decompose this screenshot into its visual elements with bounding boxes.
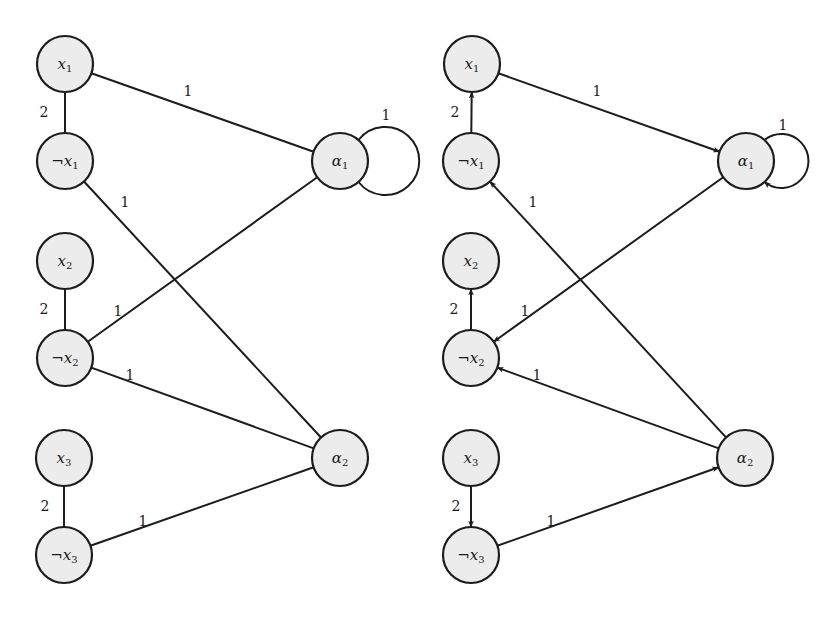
edge-weight-label: 1 xyxy=(533,367,542,383)
edge-nx3-a2 xyxy=(90,467,313,545)
graph-left: x1¬x1x2¬x2x3¬x3α1α2222111111 xyxy=(36,36,419,583)
node-nx3: ¬x3 xyxy=(443,527,499,583)
edge-weight-label: 1 xyxy=(547,513,556,529)
node-x3: x3 xyxy=(36,430,92,486)
node-nx1: ¬x1 xyxy=(443,133,499,189)
edge-nx3-a2 xyxy=(497,467,718,545)
edge-weight-label: 1 xyxy=(521,303,530,319)
node-a2: α2 xyxy=(312,430,368,486)
node-nx2: ¬x2 xyxy=(443,330,499,386)
graph-right: x1¬x1x2¬x2x3¬x3α1α2222111111 xyxy=(443,36,808,583)
edge-weight-label: 1 xyxy=(139,513,148,529)
edge-weight-label: 2 xyxy=(450,301,459,317)
edge-a2-nx2 xyxy=(497,368,718,449)
edge-weight-label: 2 xyxy=(41,498,50,514)
edge-x1-a1 xyxy=(498,73,719,151)
edge-weight-label: 2 xyxy=(452,498,461,514)
node-x1: x1 xyxy=(37,36,93,92)
node-x2: x2 xyxy=(443,233,499,289)
node-nx3: ¬x3 xyxy=(36,527,92,583)
node-x2: x2 xyxy=(37,233,93,289)
edge-weight-label: 2 xyxy=(40,301,49,317)
figure-canvas: x1¬x1x2¬x2x3¬x3α1α2222111111x1¬x1x2¬x2x3… xyxy=(0,0,838,619)
graph-figure: x1¬x1x2¬x2x3¬x3α1α2222111111x1¬x1x2¬x2x3… xyxy=(0,0,838,619)
node-a2: α2 xyxy=(717,430,773,486)
node-a1: α1 xyxy=(718,133,774,189)
node-x3: x3 xyxy=(443,430,499,486)
node-nx1: ¬x1 xyxy=(37,133,93,189)
node-a1: α1 xyxy=(312,133,368,189)
edge-weight-label: 1 xyxy=(779,117,788,133)
edge-weight-label: 1 xyxy=(126,367,135,383)
edge-weight-label: 1 xyxy=(529,194,538,210)
node-nx2: ¬x2 xyxy=(37,330,93,386)
edge-weight-label: 1 xyxy=(593,83,602,99)
node-x1: x1 xyxy=(444,36,500,92)
edge-weight-label: 1 xyxy=(121,194,130,210)
edge-weight-label: 1 xyxy=(184,83,193,99)
edge-weight-label: 1 xyxy=(114,303,123,319)
edge-x1-a1 xyxy=(91,73,313,151)
edge-weight-label: 2 xyxy=(40,104,49,120)
edge-weight-label: 1 xyxy=(382,107,391,123)
edge-weight-label: 2 xyxy=(451,104,460,120)
